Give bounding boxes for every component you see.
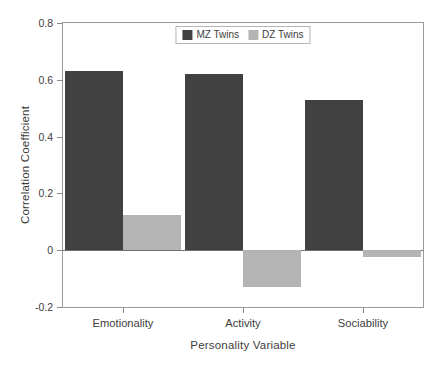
legend: MZ TwinsDZ Twins [175,26,310,44]
y-axis-tick-mark [57,307,63,308]
bar-chart: Correlation Coefficient 0.80.60.40.20-0.… [0,0,432,365]
x-axis-tick-label: Emotionality [93,317,154,329]
bar-dz-twins-activity [243,250,301,287]
legend-entry-dz-twins: DZ Twins [248,30,304,40]
legend-entry-mz-twins: MZ Twins [182,30,239,40]
x-axis-tick-mark [363,307,364,313]
plot-area: Correlation Coefficient 0.80.60.40.20-0.… [62,22,424,308]
y-axis-tick-mark [57,137,63,138]
legend-swatch-icon [182,30,192,40]
legend-label: DZ Twins [262,30,304,40]
x-axis-tick-mark [243,307,244,313]
x-axis-title: Personality Variable [190,339,295,351]
y-axis-title: Correlation Coefficient [19,106,31,224]
y-axis-tick-label: -0.2 [0,302,53,313]
y-axis-tick-mark [57,193,63,194]
bar-mz-twins-sociability [305,100,363,251]
y-axis-tick-label: 0.4 [0,132,53,143]
bar-mz-twins-emotionality [65,71,123,250]
y-axis-tick-label: 0.6 [0,75,53,86]
legend-swatch-icon [248,30,258,40]
x-axis-tick-label: Sociability [338,317,388,329]
y-axis-tick-mark [57,23,63,24]
y-axis-tick-label: 0 [0,245,53,256]
bar-mz-twins-activity [185,74,243,250]
legend-label: MZ Twins [196,30,239,40]
bar-dz-twins-sociability [363,250,421,257]
y-axis-tick-label: 0.2 [0,188,53,199]
x-axis-tick-mark [123,307,124,313]
x-axis-tick-label: Activity [225,317,260,329]
bar-dz-twins-emotionality [123,215,181,251]
y-axis-tick-label: 0.8 [0,18,53,29]
y-axis-tick-mark [57,80,63,81]
